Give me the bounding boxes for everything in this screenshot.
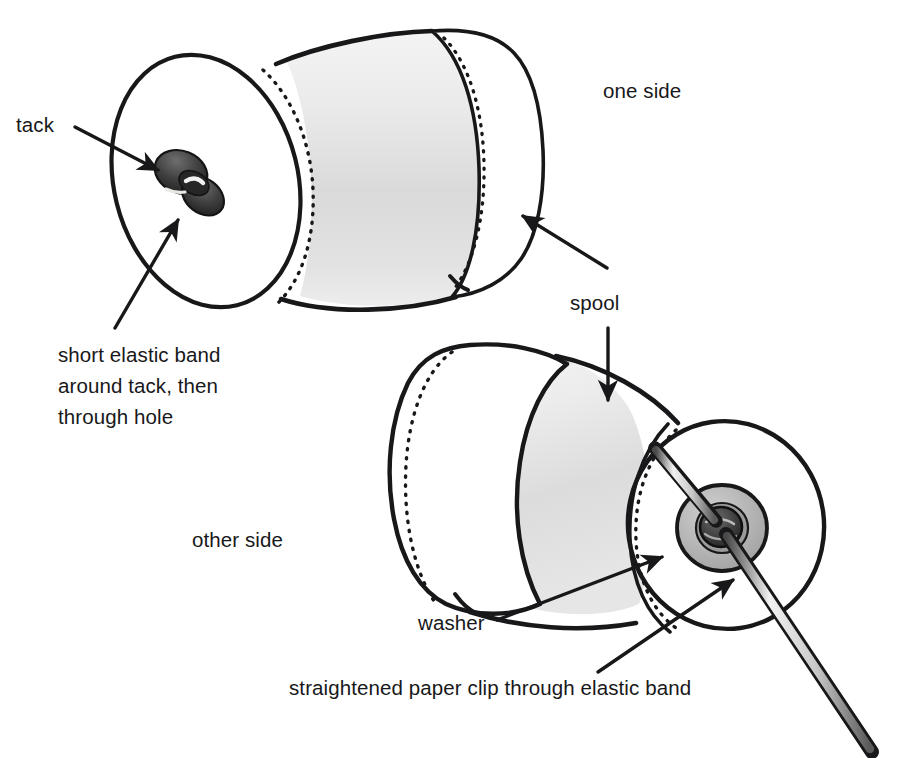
- upper-spool: [86, 30, 544, 327]
- label-short-elastic-band-line1: short elastic band: [58, 341, 220, 368]
- label-washer: washer: [418, 609, 485, 636]
- label-tack: tack: [16, 111, 54, 138]
- label-short-elastic-band-line3: through hole: [58, 403, 173, 430]
- label-spool: spool: [570, 289, 620, 316]
- label-one-side: one side: [603, 77, 681, 104]
- figure-canvas: p g p g: [0, 0, 915, 758]
- label-other-side: other side: [192, 526, 283, 553]
- label-short-elastic-band-line2: around tack, then: [58, 372, 218, 399]
- arrow-spool-up: [523, 216, 607, 268]
- label-straightened-paper-clip: straightened paper clip through elastic …: [289, 674, 691, 701]
